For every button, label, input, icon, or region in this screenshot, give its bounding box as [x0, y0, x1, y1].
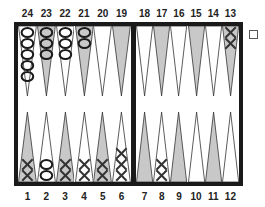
point-label-17: 17	[153, 8, 171, 19]
doubling-cube-box[interactable]	[249, 30, 258, 39]
point-3[interactable]	[56, 112, 75, 182]
point-label-9: 9	[170, 191, 188, 202]
point-10[interactable]	[188, 112, 205, 182]
point-label-22: 22	[56, 8, 74, 19]
point-triangle	[188, 26, 204, 96]
point-label-3: 3	[56, 191, 74, 202]
point-9[interactable]	[170, 112, 187, 182]
point-label-4: 4	[75, 191, 93, 202]
point-14[interactable]	[205, 26, 222, 96]
point-24[interactable]	[18, 26, 37, 96]
point-triangle	[137, 26, 153, 96]
point-label-10: 10	[187, 191, 205, 202]
point-triangle	[222, 26, 238, 96]
point-label-20: 20	[94, 8, 112, 19]
point-label-14: 14	[204, 8, 222, 19]
point-8[interactable]	[153, 112, 170, 182]
point-triangle	[171, 112, 187, 182]
point-label-5: 5	[94, 191, 112, 202]
point-label-16: 16	[170, 8, 188, 19]
point-2[interactable]	[37, 112, 56, 182]
point-1[interactable]	[18, 112, 37, 182]
point-triangle	[205, 112, 221, 182]
point-triangle	[205, 26, 221, 96]
point-label-2: 2	[37, 191, 55, 202]
point-label-23: 23	[37, 8, 55, 19]
point-triangle	[171, 26, 187, 96]
point-17[interactable]	[153, 26, 170, 96]
point-label-15: 15	[187, 8, 205, 19]
point-label-19: 19	[113, 8, 131, 19]
point-label-1: 1	[18, 191, 36, 202]
point-triangle	[188, 112, 204, 182]
point-4[interactable]	[75, 112, 94, 182]
point-triangle	[19, 112, 37, 182]
point-13[interactable]	[222, 26, 239, 96]
point-triangle	[222, 112, 238, 182]
point-18[interactable]	[136, 26, 153, 96]
point-label-18: 18	[136, 8, 154, 19]
point-label-24: 24	[18, 8, 36, 19]
point-label-12: 12	[221, 191, 239, 202]
point-label-21: 21	[75, 8, 93, 19]
point-6[interactable]	[112, 112, 131, 182]
point-15[interactable]	[188, 26, 205, 96]
point-triangle	[113, 112, 131, 182]
point-label-6: 6	[113, 191, 131, 202]
point-19[interactable]	[112, 26, 131, 96]
point-label-11: 11	[204, 191, 222, 202]
point-5[interactable]	[93, 112, 112, 182]
point-triangle	[56, 112, 74, 182]
point-triangle	[94, 26, 112, 96]
point-label-13: 13	[221, 8, 239, 19]
point-label-7: 7	[136, 191, 154, 202]
point-7[interactable]	[136, 112, 153, 182]
point-22[interactable]	[56, 26, 75, 96]
point-triangle	[154, 26, 170, 96]
point-16[interactable]	[170, 26, 187, 96]
point-triangle	[94, 112, 112, 182]
point-12[interactable]	[222, 112, 239, 182]
point-20[interactable]	[93, 26, 112, 96]
point-triangle	[113, 26, 131, 96]
point-triangle	[154, 112, 170, 182]
point-23[interactable]	[37, 26, 56, 96]
point-triangle	[137, 112, 153, 182]
point-11[interactable]	[205, 112, 222, 182]
point-label-8: 8	[153, 191, 171, 202]
point-triangle	[75, 112, 93, 182]
point-21[interactable]	[75, 26, 94, 96]
backgammon-board	[14, 22, 243, 186]
